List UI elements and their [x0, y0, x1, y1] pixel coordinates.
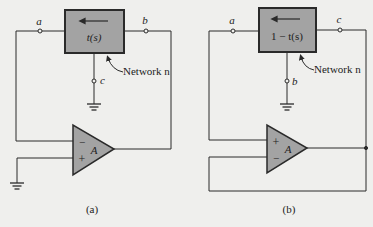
pointer-arrow-icon — [108, 58, 123, 72]
terminal-a — [231, 29, 235, 33]
opamp-minus: − — [79, 136, 85, 148]
terminal-a — [38, 29, 42, 33]
terminal-b — [144, 29, 148, 33]
terminal-b — [285, 79, 289, 83]
opamp-gain: A — [90, 144, 98, 156]
opamp-plus: + — [273, 135, 280, 149]
terminal-label-c: c — [337, 13, 342, 25]
terminal-c — [92, 79, 96, 83]
terminal-c — [338, 28, 342, 32]
block-label: 1 − t(s) — [271, 30, 303, 43]
ground-icon — [10, 183, 24, 189]
terminal-label-a: a — [36, 15, 42, 27]
terminal-label-c: c — [100, 74, 105, 86]
opamp-minus: − — [273, 152, 279, 164]
pointer-arrow-icon — [301, 57, 314, 70]
ground-icon — [87, 104, 101, 110]
network-label: Network n — [123, 65, 170, 77]
caption-b: (b) — [283, 203, 296, 216]
terminal-label-a: a — [229, 14, 235, 26]
circuit-diagram: a b c t(s) Network n − + A (a) — [0, 0, 373, 227]
opamp-plus: + — [79, 152, 86, 166]
network-label: Network n — [314, 63, 361, 75]
ground-icon — [280, 104, 294, 110]
caption-a: (a) — [86, 203, 99, 216]
opamp-gain: A — [284, 143, 292, 155]
junction-dot — [364, 146, 367, 149]
terminal-label-b: b — [292, 75, 298, 87]
terminal-label-b: b — [142, 14, 148, 26]
block-label: t(s) — [87, 31, 102, 44]
